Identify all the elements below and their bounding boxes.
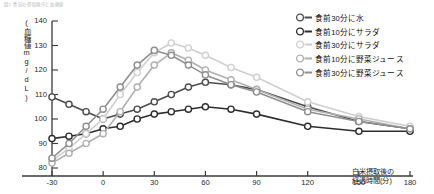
legend-marker-circle-icon	[295, 39, 315, 50]
series-point	[66, 101, 72, 107]
series-point	[305, 123, 311, 129]
legend-label: 食前30分にサラダ	[315, 39, 380, 50]
series-point	[168, 109, 174, 115]
legend-marker-circle-icon	[295, 67, 315, 78]
series-point	[168, 91, 174, 97]
series-point	[228, 64, 234, 70]
series-point	[134, 106, 140, 112]
series-point	[117, 123, 123, 129]
series-point	[151, 111, 157, 117]
series-point	[117, 84, 123, 90]
series-point	[49, 136, 55, 142]
series-point	[100, 116, 106, 122]
chart-legend: 食前30分に水食前10分にサラダ食前30分にサラダ食前10分に野菜ジュース食前3…	[295, 11, 434, 79]
y-tick-label: 110	[25, 90, 47, 99]
series-point	[202, 79, 208, 85]
series-point	[185, 62, 191, 68]
series-point	[185, 45, 191, 51]
x-axis-title: 白米摂取後の 経過時間(分)	[352, 167, 394, 186]
legend-item[interactable]: 食前30分に水	[295, 11, 434, 25]
series-point	[185, 106, 191, 112]
series-point	[151, 99, 157, 105]
series-point	[49, 94, 55, 100]
series-point	[168, 52, 174, 58]
series-point	[66, 140, 72, 146]
legend-marker-circle-icon	[295, 12, 315, 23]
series-point	[168, 40, 174, 46]
series-point	[151, 62, 157, 68]
series-point	[202, 52, 208, 58]
series-point	[305, 109, 311, 115]
legend-item[interactable]: 食前30分に野菜ジュース	[295, 65, 434, 79]
x-tick-label: 30	[141, 178, 167, 187]
legend-marker-circle-icon	[295, 53, 315, 64]
series-point	[134, 116, 140, 122]
series-point	[228, 82, 234, 88]
legend-item[interactable]: 食前10分に野菜ジュース	[295, 52, 434, 66]
series-point	[254, 111, 260, 117]
legend-label: 食前30分に水	[315, 12, 364, 23]
legend-marker-circle-icon	[295, 26, 315, 37]
y-tick-label: 90	[25, 139, 47, 148]
series-point	[117, 109, 123, 115]
series-point	[134, 62, 140, 68]
series-point	[228, 106, 234, 112]
x-tick-label: 120	[295, 178, 321, 187]
series-point	[185, 84, 191, 90]
x-tick-label: 0	[90, 178, 116, 187]
series-point	[83, 109, 89, 115]
series-point	[254, 89, 260, 95]
series-point	[134, 84, 140, 90]
y-tick-label: 140	[25, 16, 47, 25]
x-tick-label: -30	[39, 178, 65, 187]
legend-item[interactable]: 食前30分にサラダ	[295, 38, 434, 52]
series-point	[134, 69, 140, 75]
series-point	[117, 91, 123, 97]
x-tick-label: 90	[244, 178, 270, 187]
series-point	[202, 72, 208, 78]
legend-label: 食前30分に野菜ジュース	[315, 67, 404, 78]
series-point	[66, 133, 72, 139]
series-point	[100, 106, 106, 112]
y-tick-label: 100	[25, 114, 47, 123]
series-point	[83, 123, 89, 129]
series-point	[254, 74, 260, 80]
y-tick-label: 130	[25, 41, 47, 50]
series-point	[356, 128, 362, 134]
series-point	[407, 126, 413, 132]
x-tick-label: 60	[192, 178, 218, 187]
series-point	[202, 104, 208, 110]
legend-item[interactable]: 食前10分にサラダ	[295, 25, 434, 39]
series-point	[100, 131, 106, 137]
series-point	[356, 118, 362, 124]
legend-label: 食前10分に野菜ジュース	[315, 53, 404, 64]
y-tick-label: 80	[25, 163, 47, 172]
series-point	[83, 140, 89, 146]
series-point	[49, 155, 55, 161]
y-tick-label: 120	[25, 65, 47, 74]
series-point	[305, 99, 311, 105]
x-axis-title-line2: 経過時間(分)	[352, 176, 394, 185]
x-tick-label: 180	[397, 178, 423, 187]
legend-label: 食前10分にサラダ	[315, 26, 380, 37]
series-point	[83, 131, 89, 137]
series-point	[151, 47, 157, 53]
series-point	[66, 150, 72, 156]
x-axis-title-line1: 白米摂取後の	[352, 167, 394, 176]
